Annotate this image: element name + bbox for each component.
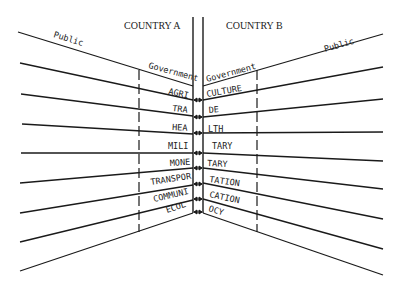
sector-label-a-trade: TRA [172,103,188,115]
sector-label-b-communication: CATION [209,189,241,205]
exchange-arrows [194,98,202,214]
country-a-title: COUNTRY A [124,20,181,31]
arrow-trade-icon [194,115,202,119]
sector-label-a-health: HEA [172,122,188,133]
sector-label-b-military: TARY [212,141,232,151]
sector-label-b-trade: DE [208,104,219,115]
sector-label-b-monetary: TARY [207,158,228,169]
country-a-public-label: Public [52,29,84,48]
country-b-public-label: Public [323,36,355,54]
sector-label-a-transportation: TRANSPOR [150,171,193,187]
sector-label-a-monetary: MONE [169,157,190,168]
sector-label-b-health: LTH [208,124,223,134]
sector-label-a-military: MILI [168,141,188,151]
arrow-ecology-icon [194,210,202,214]
arrow-transportation-icon [194,182,202,186]
arrow-health-icon [194,131,202,135]
arrow-monetary-icon [194,166,202,170]
sector-label-a-ecology: ECOL [165,199,188,215]
arrow-military-icon [194,151,202,155]
sector-label-b-transportation: TATION [209,174,241,188]
sector-label-a-agriculture: AGRI [168,86,190,100]
country-b-title: COUNTRY B [226,20,283,31]
arrow-communication-icon [194,197,202,201]
country-b-government-label: Government [205,61,257,84]
arrow-agriculture-icon [194,98,202,102]
government-public-sector-diagram: COUNTRY A COUNTRY B [0,0,402,291]
